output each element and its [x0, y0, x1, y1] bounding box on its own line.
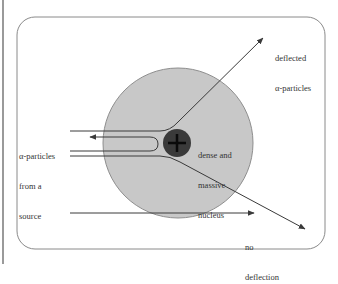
deflected-label-line1: deflected	[275, 53, 311, 63]
nucleus-label: dense and massive nucleus	[198, 130, 232, 230]
deflected-label: deflected α-particles	[275, 33, 311, 103]
source-label-line1: α-particles	[19, 151, 55, 161]
deflected-label-line2: α-particles	[275, 83, 311, 93]
nucleus-label-line2: massive	[198, 180, 232, 190]
nucleus-label-line1: dense and	[198, 150, 232, 160]
no-deflection-label: no deflection	[245, 222, 279, 284]
source-label-line2: from a	[19, 181, 55, 191]
no-deflection-label-line1: no	[245, 242, 279, 252]
no-deflection-label-line2: deflection	[245, 272, 279, 282]
nucleus-label-line3: nucleus	[198, 210, 232, 220]
source-label: α-particles from a source	[19, 131, 55, 231]
source-label-line3: source	[19, 211, 55, 221]
